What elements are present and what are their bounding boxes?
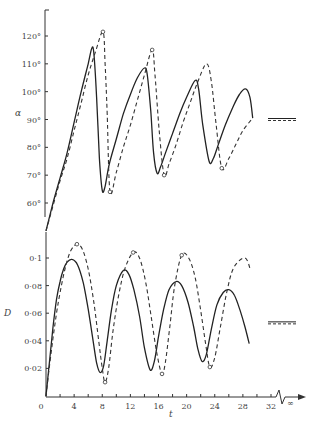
alpha-y-tick-label: 70° bbox=[27, 171, 41, 180]
x-tick-label: 20 bbox=[182, 402, 192, 411]
x-tick-label: 8 bbox=[100, 402, 105, 411]
d-y-tick-label: 0·04 bbox=[24, 337, 42, 346]
x-break-label: ∞ bbox=[287, 399, 294, 408]
data-point-marker bbox=[220, 166, 224, 170]
d-y-axis-title: D bbox=[3, 308, 11, 318]
chart: 60°70°80°90°100°110°120° α 0·020·040·060… bbox=[0, 0, 322, 424]
x-tick-label: 12 bbox=[125, 402, 135, 411]
x-tick-label: 24 bbox=[210, 402, 220, 411]
alpha-y-tick-label: 110° bbox=[22, 60, 41, 69]
data-point-marker bbox=[103, 380, 107, 384]
alpha-y-tick-label: 60° bbox=[27, 199, 41, 208]
data-point-marker bbox=[75, 242, 79, 246]
x-tick-label: 32 bbox=[266, 402, 276, 411]
x-axis-title: t bbox=[169, 409, 173, 419]
data-point-marker bbox=[150, 48, 154, 52]
data-point-marker bbox=[180, 253, 184, 257]
d-y-tick-label: 0·08 bbox=[24, 282, 42, 291]
x-tick-label: 4 bbox=[72, 402, 77, 411]
x-tick-label: 16 bbox=[153, 402, 163, 411]
d-y-tick-label: 0·06 bbox=[24, 309, 42, 318]
d-y-tick-label: 0·02 bbox=[24, 364, 42, 373]
alpha-markers bbox=[101, 30, 223, 194]
d-series bbox=[46, 244, 251, 396]
series-line-dashed bbox=[46, 244, 251, 396]
x-axis: 048121620242832 ∞ t bbox=[38, 390, 306, 419]
data-point-marker bbox=[160, 372, 164, 376]
alpha-y-ticks: 60°70°80°90°100°110°120° bbox=[22, 32, 48, 208]
series-line-solid bbox=[46, 259, 249, 396]
d-y-tick-label: 0·1 bbox=[29, 254, 42, 263]
alpha-series bbox=[46, 32, 253, 231]
d-y-ticks: 0·020·040·060·080·1 bbox=[24, 254, 49, 373]
series-line-dashed bbox=[46, 32, 253, 231]
axis-break-zigzag bbox=[276, 390, 285, 404]
d-panel: 0·020·040·060·080·1 D bbox=[3, 232, 296, 397]
x-tick-label: 28 bbox=[238, 402, 248, 411]
alpha-y-tick-label: 80° bbox=[27, 143, 41, 152]
series-line-solid bbox=[46, 47, 253, 231]
alpha-y-axis-title: α bbox=[15, 108, 21, 118]
x-axis-arrow-icon bbox=[298, 394, 306, 400]
data-point-marker bbox=[101, 30, 105, 34]
data-point-marker bbox=[108, 190, 112, 194]
alpha-asymptote bbox=[268, 119, 296, 121]
data-point-marker bbox=[131, 251, 135, 255]
d-asymptote bbox=[268, 322, 296, 324]
alpha-y-tick-label: 90° bbox=[27, 116, 41, 125]
alpha-panel: 60°70°80°90°100°110°120° α bbox=[15, 10, 296, 231]
alpha-y-tick-label: 120° bbox=[22, 32, 41, 41]
data-point-marker bbox=[162, 173, 166, 177]
data-point-marker bbox=[208, 365, 212, 369]
alpha-y-tick-label: 100° bbox=[22, 88, 41, 97]
x-tick-label: 0 bbox=[38, 402, 43, 411]
